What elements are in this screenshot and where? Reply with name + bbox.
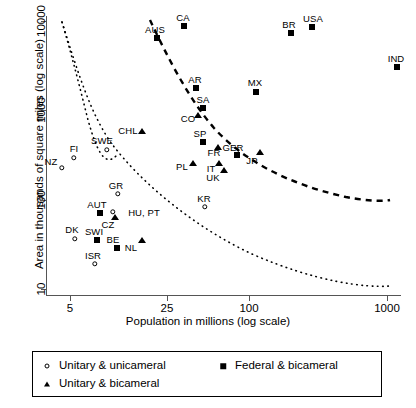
data-label-fi: FI (70, 143, 79, 154)
data-point-uk (220, 167, 228, 173)
data-point-br (288, 30, 294, 36)
data-label-nz: NZ (45, 156, 58, 167)
y-tick-label-100: 100 (31, 194, 50, 206)
data-point-it (215, 160, 223, 166)
legend-box: Unitary & unicameralFederal & bicameralU… (32, 351, 382, 397)
data-label-swi: SWI (85, 226, 103, 237)
x-tick-label-100: 100 (239, 302, 258, 314)
y-tick-label-10: 10 (35, 283, 48, 295)
legend-marker-circle (45, 364, 50, 369)
data-label-gr: GR (109, 180, 123, 191)
data-label-hu-pt: HU, PT (128, 207, 160, 218)
data-label-kr: KR (197, 193, 210, 204)
data-point-nl (138, 237, 146, 243)
x-tick-label-1000: 1000 (374, 302, 400, 314)
data-label-swe: SWE (91, 135, 113, 146)
data-point-pl (189, 160, 197, 166)
data-label-pl: PL (176, 161, 188, 172)
data-point-mx (253, 89, 259, 95)
data-label-sa: SA (197, 94, 210, 105)
data-label-jp: JP (246, 155, 257, 166)
data-label-nl: NL (125, 242, 137, 253)
legend-label-1: Federal & bicameral (235, 359, 338, 371)
data-label-mx: MX (248, 77, 262, 88)
data-point-ar (193, 85, 199, 91)
data-label-sp: SP (194, 128, 207, 139)
legend-label-0: Unitary & unicameral (59, 359, 166, 371)
x-tick-5 (70, 296, 71, 301)
data-label-ar: AR (188, 74, 201, 85)
x-tick-100 (249, 296, 250, 301)
data-label-fr: FR (208, 147, 221, 158)
data-point-be (114, 245, 120, 251)
data-label-ger: GER (223, 142, 244, 153)
data-label-aut: AUT (87, 199, 106, 210)
y-tick-label-10000: 10000 (25, 15, 57, 27)
data-label-uk: UK (206, 172, 219, 183)
data-point-usa (309, 24, 315, 30)
data-label-chl: CHL (118, 125, 137, 136)
x-tick-label-5: 5 (67, 302, 73, 314)
data-point-swi (94, 237, 100, 243)
data-point-chl (138, 128, 146, 134)
legend-marker-triangle (44, 382, 50, 387)
data-label-aus: AUS (145, 24, 165, 35)
x-tick-25 (167, 296, 168, 301)
y-axis-title: Area in thousands of square miles (log s… (33, 29, 45, 279)
data-point-aus (154, 35, 160, 41)
data-label-br: BR (282, 19, 295, 30)
y-tick-label-1000: 1000 (28, 104, 54, 116)
plot-area: 10100100010000 5251001000 NZFISWEGRHU, P… (46, 16, 401, 296)
data-point-sa (200, 105, 206, 111)
data-label-be: BE (107, 234, 120, 245)
data-point-ca (181, 23, 187, 29)
data-label-cz: CZ (102, 219, 115, 230)
data-point-aut (97, 210, 103, 216)
data-point-ind (394, 64, 400, 70)
data-label-usa: USA (303, 13, 323, 24)
scatter-plot-figure: Area in thousands of square miles (log s… (0, 0, 416, 408)
legend-label-2: Unitary & bicameral (59, 377, 159, 389)
data-label-ca: CA (176, 12, 189, 23)
x-tick-label-25: 25 (161, 302, 174, 314)
data-label-dk: DK (65, 224, 78, 235)
data-label-isr: ISR (85, 250, 101, 261)
legend-marker-square (220, 363, 226, 369)
data-point-ger (234, 152, 240, 158)
x-tick-1000 (387, 296, 388, 301)
x-axis-title: Population in millions (log scale) (0, 315, 416, 327)
dashed-frontier-curve (150, 20, 390, 201)
data-label-ind: IND (388, 53, 405, 64)
data-point-sp (200, 139, 206, 145)
data-label-co: CO (181, 113, 195, 124)
dotted-frontier-curve (62, 22, 390, 286)
